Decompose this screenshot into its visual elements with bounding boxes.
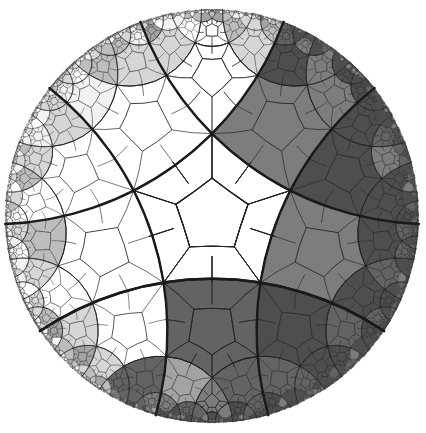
- poincare-disk-svg: Hyperbolic tessellation in the Poincare …: [0, 0, 426, 433]
- hyperbolic-tiling-figure: Hyperbolic tessellation in the Poincare …: [0, 0, 426, 433]
